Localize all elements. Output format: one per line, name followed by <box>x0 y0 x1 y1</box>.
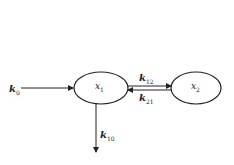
label-x1: x1 <box>95 82 104 93</box>
label-k10: k10 <box>100 130 115 142</box>
label-k12: k12 <box>139 73 154 85</box>
label-k0: k0 <box>9 84 20 96</box>
label-k21: k21 <box>139 93 154 105</box>
label-x2: x2 <box>191 82 200 93</box>
